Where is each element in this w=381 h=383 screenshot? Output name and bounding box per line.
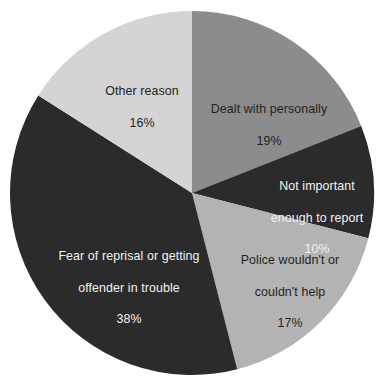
pie-slice-group xyxy=(10,11,374,375)
pie-chart: Dealt with personally 19% Not important … xyxy=(0,0,381,383)
pie-chart-svg xyxy=(0,0,381,383)
